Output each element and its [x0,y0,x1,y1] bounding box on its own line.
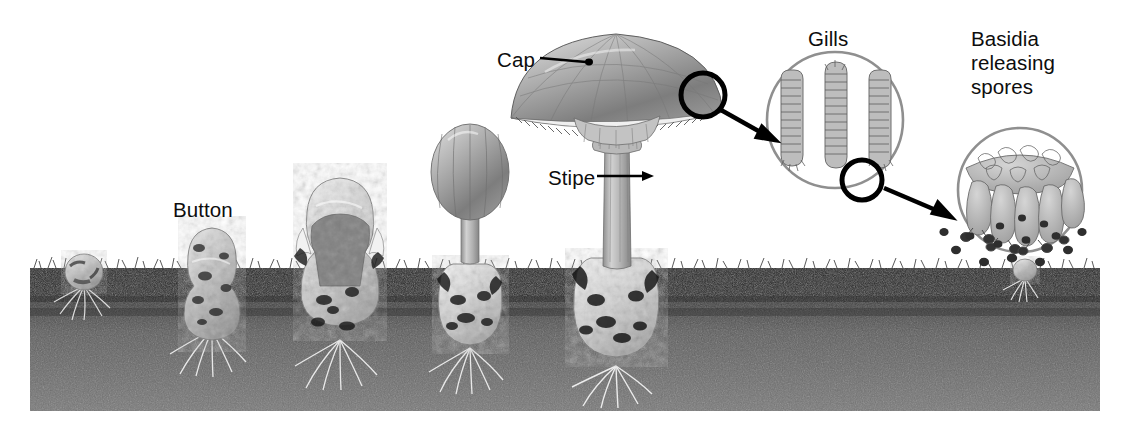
mushroom-life-cycle-figure: Cap Button Stipe Gills Basidia releasing… [0,0,1128,431]
label-button: Button [173,198,233,221]
basidia-inset [958,128,1084,255]
gills-inset [767,52,903,188]
label-gills: Gills [808,27,848,50]
label-stipe: Stipe [548,166,595,189]
figure-artwork [0,0,1128,431]
label-cap: Cap [497,48,535,71]
label-basidia-releasing-spores: Basidia releasing spores [971,27,1055,99]
